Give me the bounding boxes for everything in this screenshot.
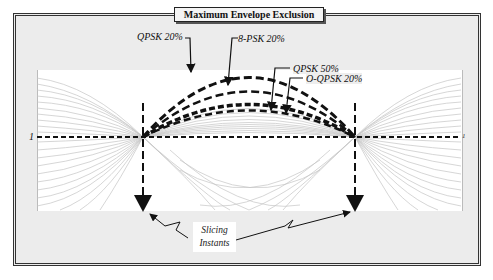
label-8psk20: 8-PSK 20% <box>238 33 285 44</box>
reference-level-label: 1 <box>29 131 34 142</box>
diagram-title: Maximum Envelope Exclusion <box>174 7 324 22</box>
slicing-label-line1: Slicing <box>193 224 236 237</box>
right-annotation-arrow <box>236 212 350 240</box>
label-qpsk20: QPSK 20% <box>137 31 183 42</box>
left-slicing-arrow-icon <box>134 195 152 212</box>
right-slicing-arrow-icon <box>346 195 364 212</box>
eye-traces <box>37 78 461 210</box>
reference-level-label-right: 1 <box>462 132 466 140</box>
label-oqpsk20: O-QPSK 20% <box>306 73 362 84</box>
left-annotation-arrow <box>150 214 188 238</box>
label-pointers <box>185 38 303 113</box>
slicing-label-line2: Instants <box>193 237 236 250</box>
slicing-instants-label: Slicing Instants <box>193 222 236 252</box>
